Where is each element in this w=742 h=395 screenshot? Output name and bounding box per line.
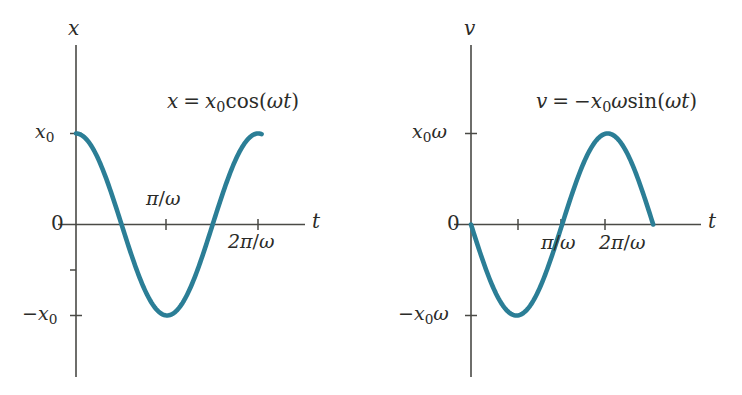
eq-equals: = — [183, 89, 200, 113]
y-tick-label-neg-x0-sub: 0 — [49, 311, 58, 327]
eq-paren-close: ) — [291, 89, 299, 113]
eq-func: sin — [628, 89, 658, 113]
eq-amp: x — [591, 89, 602, 113]
eq-t: t — [283, 89, 291, 113]
eq-lhs: v — [536, 89, 547, 113]
y-tick-label-zero: 0 — [51, 213, 64, 233]
x-tick-label-pi-over-omega: π/ω — [146, 189, 180, 208]
eq-sign: − — [574, 89, 591, 113]
eq-equals: = — [552, 89, 569, 113]
figure-canvas: x t x0 0 −x0 π/ω 2π/ω x=x0cos(ωt) — [0, 0, 742, 395]
velocity-plot-svg — [371, 0, 742, 395]
eq-amp-omega: ω — [611, 89, 627, 113]
y-tick-x0omega-tail: ω — [431, 120, 447, 142]
eq-paren-close: ) — [689, 89, 697, 113]
eq-amp: x — [205, 89, 216, 113]
x-tick-pi-den: ω — [560, 231, 576, 253]
y-tick-label-x0: x0 — [35, 122, 54, 145]
eq-omega: ω — [665, 89, 681, 113]
eq-amp-sub: 0 — [602, 99, 611, 115]
velocity-equation: v=−x0ωsin(ωt) — [536, 91, 697, 114]
x-tick-label-2pi-over-omega: 2π/ω — [228, 232, 274, 251]
eq-omega: ω — [267, 89, 283, 113]
y-tick-label-neg-x0omega: −x0ω — [398, 304, 449, 327]
chart-panel-displacement: x t x0 0 −x0 π/ω 2π/ω x=x0cos(ωt) — [0, 0, 371, 395]
displacement-equation: x=x0cos(ωt) — [167, 91, 299, 114]
y-tick-label-zero: 0 — [447, 213, 460, 233]
y-tick-x0omega-text: x — [412, 120, 423, 142]
y-tick-label-neg-x0-text: −x — [22, 302, 49, 324]
x-tick-pi-num: π — [146, 187, 159, 209]
y-tick-label-neg-x0: −x0 — [22, 304, 57, 327]
x-axis-label: t — [312, 211, 320, 231]
eq-func: cos — [225, 89, 259, 113]
x-tick-2pi-num: 2π — [599, 231, 624, 253]
eq-paren-open: ( — [657, 89, 665, 113]
y-tick-neg-x0omega-tail: ω — [433, 302, 449, 324]
x-tick-2pi-den: ω — [259, 230, 275, 252]
x-tick-label-pi-over-omega: π/ω — [541, 233, 575, 252]
eq-lhs: x — [167, 89, 178, 113]
y-tick-label-x0-sub: 0 — [46, 129, 55, 145]
y-tick-label-x0-text: x — [35, 120, 46, 142]
y-tick-neg-x0omega-text: −x — [398, 302, 425, 324]
chart-panel-velocity: v t x0ω 0 −x0ω π/ω 2π/ω v=−x0ωsin(ωt) — [371, 0, 742, 395]
eq-paren-open: ( — [259, 89, 267, 113]
y-tick-label-x0omega: x0ω — [412, 122, 447, 145]
x-tick-label-2pi-over-omega: 2π/ω — [599, 233, 645, 252]
x-axis-label: t — [708, 211, 716, 231]
y-axis-label: x — [68, 18, 79, 38]
displacement-plot-svg — [0, 0, 371, 395]
x-tick-2pi-num: 2π — [228, 230, 253, 252]
y-axis-label: v — [464, 18, 475, 38]
x-tick-pi-den: ω — [165, 187, 181, 209]
x-tick-2pi-den: ω — [630, 231, 646, 253]
x-tick-pi-num: π — [541, 231, 554, 253]
